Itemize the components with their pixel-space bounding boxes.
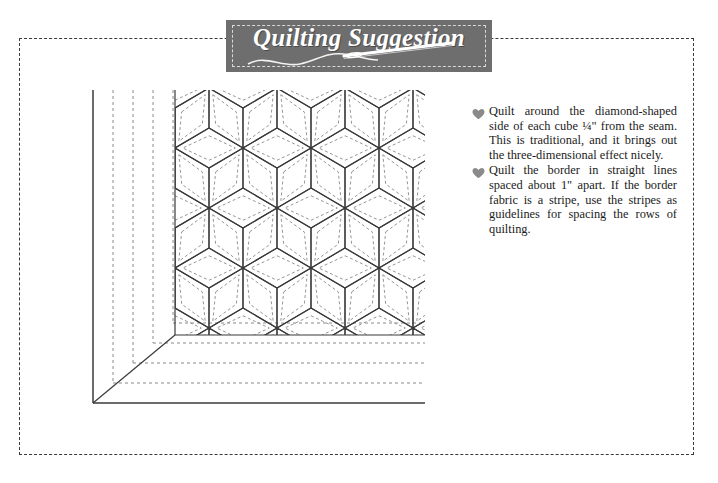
cube-face-right xyxy=(243,328,277,388)
cube-face-top xyxy=(311,248,379,288)
cube-face-top xyxy=(209,308,277,348)
cube-face-top xyxy=(80,308,141,348)
cube-face-top xyxy=(209,188,277,228)
quilting-stitch-line xyxy=(111,335,137,382)
cube-face-top xyxy=(379,248,440,288)
quilting-stitch-line xyxy=(281,95,307,142)
cube-face-right xyxy=(107,208,141,268)
quilting-stitch-line xyxy=(213,335,239,382)
quilting-stitch-line xyxy=(80,335,103,382)
cube-face-right xyxy=(141,148,175,208)
quilting-stitch-line xyxy=(247,155,273,202)
quilting-stitch-line xyxy=(145,155,171,202)
quilting-stitch-line xyxy=(80,95,103,142)
quilting-stitch-line xyxy=(247,275,273,322)
cube-face-right xyxy=(243,90,277,148)
quilting-stitch-line xyxy=(179,155,205,202)
quilting-stitch-line xyxy=(315,155,341,202)
quilting-stitch-line xyxy=(417,95,440,142)
cube-face-top xyxy=(175,248,243,288)
cube-face-top xyxy=(277,308,345,348)
quilting-stitch-line xyxy=(281,215,307,262)
list-item: Quilt around the diamond-shaped side of … xyxy=(472,104,677,162)
quilting-stitch-line xyxy=(285,90,338,100)
cube-face-right xyxy=(379,90,413,148)
instruction-text-1: Quilt around the diamond-shaped side of … xyxy=(489,104,677,162)
quilting-stitch-line xyxy=(315,335,341,382)
list-item: Quilt the border in straight lines space… xyxy=(472,163,677,236)
quilting-stitch-line xyxy=(81,316,134,341)
cube-face-right xyxy=(141,268,175,328)
cube-face-right xyxy=(175,328,209,388)
cube-face-top xyxy=(413,188,440,228)
cube-face-top xyxy=(345,188,413,228)
cube-face-left xyxy=(277,208,311,268)
cube-face-left xyxy=(311,148,345,208)
quilting-stitch-line xyxy=(115,136,168,161)
quilting-stitch-line xyxy=(421,90,440,100)
quilting-stitch-line xyxy=(383,335,409,382)
cube-face-right xyxy=(311,90,345,148)
cube-face-right xyxy=(243,208,277,268)
quilting-stitch-line xyxy=(217,90,270,100)
cube-face-left xyxy=(345,208,379,268)
quilting-stitch-line xyxy=(417,275,440,322)
quilting-stitch-line xyxy=(213,275,239,322)
quilting-stitch-line xyxy=(179,215,205,262)
cube-face-top xyxy=(243,128,311,168)
quilting-stitch-line xyxy=(349,215,375,262)
quilting-stitch-line xyxy=(383,155,409,202)
cube-face-top xyxy=(379,128,440,168)
cube-face-top xyxy=(80,188,141,228)
cube-face-left xyxy=(413,328,440,388)
cube-face-right xyxy=(311,328,345,388)
cube-face-left xyxy=(311,268,345,328)
quilting-stitch-line xyxy=(353,90,406,100)
quilting-stitch-line xyxy=(179,95,205,142)
cube-face-right xyxy=(379,328,413,388)
quilting-stitch-line xyxy=(81,196,134,221)
quilting-stitch-line xyxy=(213,155,239,202)
quilting-stitch-line xyxy=(383,95,409,142)
quilting-stitch-line xyxy=(145,95,171,142)
quilting-stitch-line xyxy=(315,275,341,322)
cube-face-top xyxy=(413,308,440,348)
cube-face-right xyxy=(379,208,413,268)
quilting-stitch-line xyxy=(115,256,168,281)
cube-face-left xyxy=(141,208,175,268)
quilting-stitch-line xyxy=(81,90,134,100)
cube-face-left xyxy=(345,90,379,148)
cube-face-right xyxy=(311,208,345,268)
cube-face-left xyxy=(413,208,440,268)
quilting-stitch-line xyxy=(281,275,307,322)
cube-face-left xyxy=(107,148,141,208)
quilting-stitch-line xyxy=(247,335,273,382)
title-banner: Quilting Suggestion xyxy=(226,20,492,72)
cube-face-right xyxy=(175,90,209,148)
cube-face-left xyxy=(243,268,277,328)
cube-face-left xyxy=(277,90,311,148)
quilting-stitch-line xyxy=(179,275,205,322)
page-canvas: Quilting Suggestion Quilt around the dia… xyxy=(0,0,718,483)
cube-face-left xyxy=(209,328,243,388)
quilting-stitch-line xyxy=(349,335,375,382)
quilting-layout-diagram xyxy=(80,90,440,415)
quilting-stitch-line xyxy=(145,215,171,262)
cube-face-right xyxy=(277,148,311,208)
cube-face-left xyxy=(141,328,175,388)
quilting-stitch-line xyxy=(247,215,273,262)
quilting-stitch-line xyxy=(315,215,341,262)
cube-face-left xyxy=(141,90,175,148)
cube-face-top xyxy=(175,128,243,168)
quilting-stitch-line xyxy=(383,215,409,262)
instructions-list: Quilt around the diamond-shaped side of … xyxy=(472,104,677,237)
quilting-stitch-line xyxy=(421,196,440,221)
cube-face-left xyxy=(345,328,379,388)
cube-face-left xyxy=(175,148,209,208)
quilting-stitch-line xyxy=(213,215,239,262)
border-miter-corner-line xyxy=(93,335,175,403)
quilting-stitch-line xyxy=(179,335,205,382)
cube-face-top xyxy=(345,308,413,348)
instruction-text-2: Quilt the border in straight lines space… xyxy=(489,163,677,236)
cube-face-right xyxy=(107,90,141,148)
